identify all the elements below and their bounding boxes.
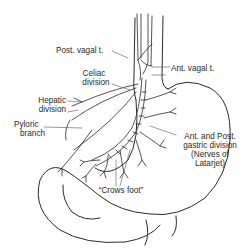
post-vagal-trunk-label: Post. vagal t.: [56, 46, 103, 55]
gastric-division-label-line2: gastric division: [174, 141, 246, 150]
ant-vagal-trunk-label: Ant. vagal t.: [171, 64, 214, 73]
gastric-division-label-line3: (Nerves of: [174, 150, 246, 159]
vagal-nerves: [58, 14, 176, 182]
hepatic-division-label-line2: division: [28, 105, 66, 114]
celiac-division-label-line2: division: [78, 78, 114, 87]
crows-foot-label: “Crows foot”: [86, 186, 156, 195]
gastric-division-label-line1: Ant. and Post.: [174, 132, 246, 141]
hepatic-division-label-line1: Hepatic: [28, 96, 66, 105]
gastric-division-label-line4: Latarjet): [174, 159, 246, 168]
celiac-division-label-line1: Celiac: [74, 69, 114, 78]
pyloric-branch-label-line2: branch: [20, 129, 45, 138]
pyloric-branch-label-line1: Pyloric: [14, 120, 39, 129]
